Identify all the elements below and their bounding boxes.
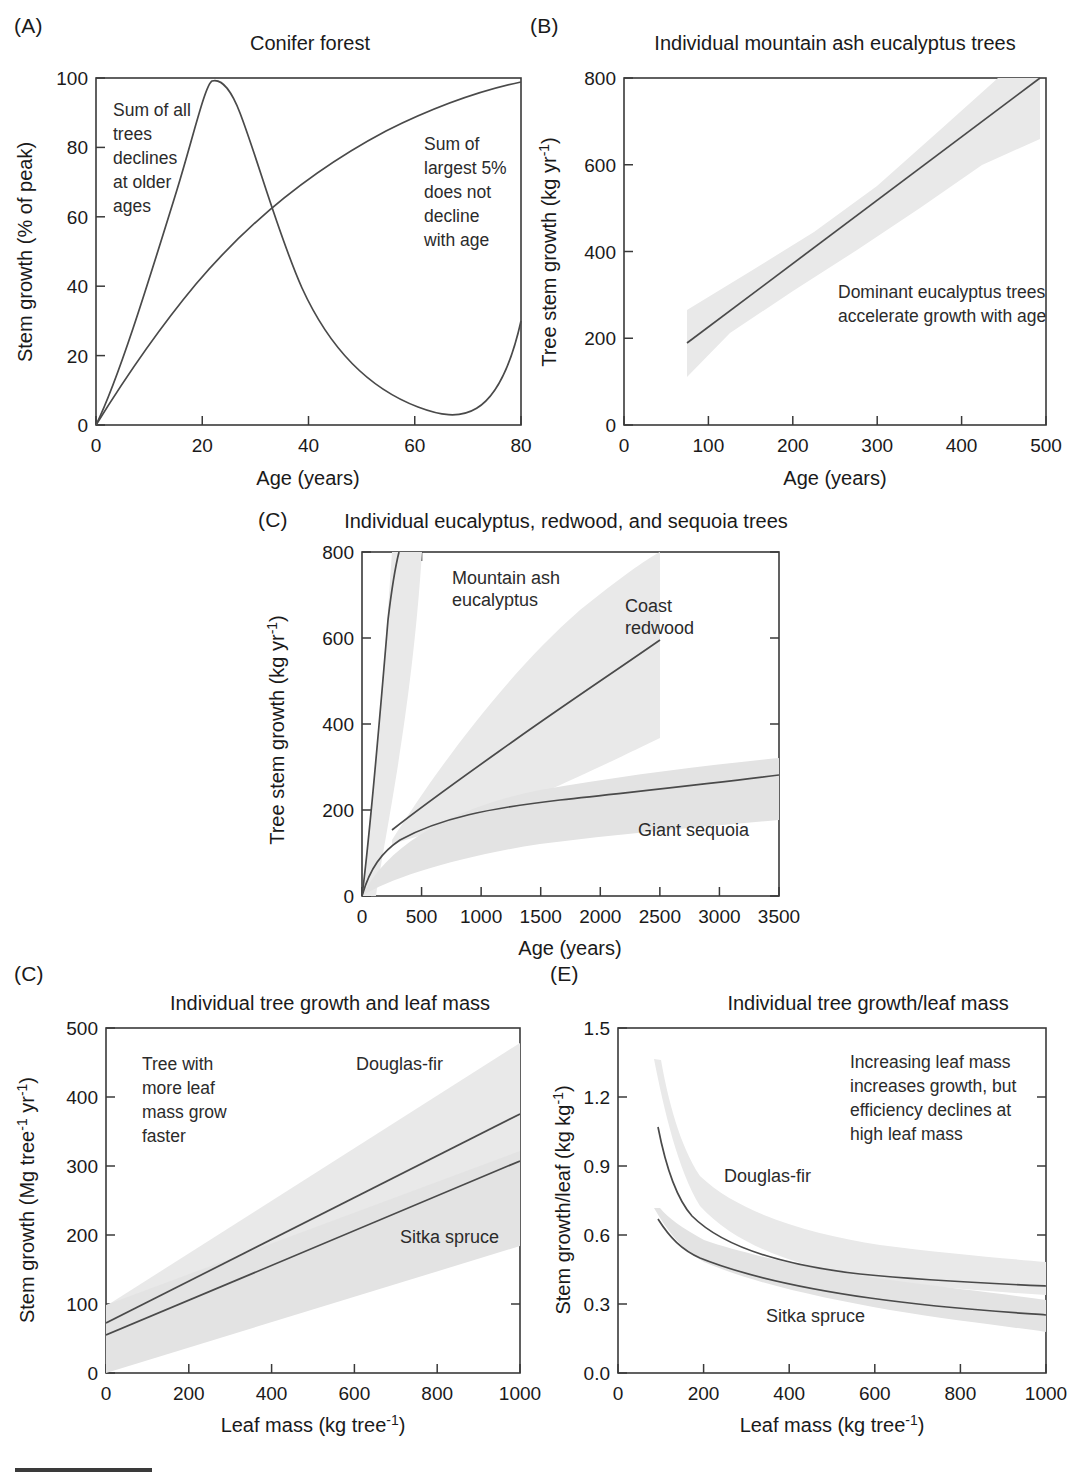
svg-text:with age: with age (423, 230, 489, 250)
panel-e-ylabel: Stem growth/leaf (kg kg-1) (550, 1085, 574, 1314)
panel-d-xtick-600: 600 (339, 1383, 371, 1404)
panel-d-label: (C) (14, 962, 44, 986)
panel-b-title: Individual mountain ash eucalyptus trees (600, 32, 1070, 55)
panel-b-xtick-200: 200 (777, 435, 809, 456)
panel-d-xticks: 0 200 400 600 800 1000 (101, 1364, 541, 1404)
panel-a-ytick-80: 80 (67, 137, 88, 158)
panel-a-title: Conifer forest (160, 32, 460, 55)
svg-text:accelerate growth with age: accelerate growth with age (838, 306, 1046, 326)
panel-e-yticks: 0.0 0.3 0.6 0.9 1.2 1.5 (584, 1018, 1046, 1384)
panel-c-xtick-3000: 3000 (698, 906, 740, 927)
panel-e-ytick-00: 0.0 (584, 1363, 610, 1384)
panel-e-xtick-800: 800 (945, 1383, 977, 1404)
panel-a-curve-all-trees-2 (96, 81, 521, 425)
panel-c-xtick-1000: 1000 (460, 906, 502, 927)
panel-c-ytick-800: 800 (322, 542, 354, 563)
panel-b-mean-line (687, 78, 1040, 343)
svg-text:eucalyptus: eucalyptus (452, 590, 538, 610)
panel-e-ytick-09: 0.9 (584, 1156, 610, 1177)
panel-b: (B) Individual mountain ash eucalyptus t… (520, 0, 1079, 500)
svg-text:Dominant eucalyptus trees: Dominant eucalyptus trees (838, 282, 1045, 302)
panel-b-xtick-300: 300 (861, 435, 893, 456)
panel-d-ytick-0: 0 (87, 1363, 98, 1384)
panel-d-xtick-400: 400 (256, 1383, 288, 1404)
svg-text:increases growth, but: increases growth, but (850, 1076, 1016, 1096)
panel-e-xticks: 0 200 400 600 800 1000 (613, 1364, 1067, 1404)
panel-e-xtick-200: 200 (688, 1383, 720, 1404)
panel-b-confidence-band (687, 78, 1040, 377)
panel-d-series-label-douglas-fir: Douglas-fir (356, 1054, 443, 1074)
panel-c-ytick-0: 0 (343, 886, 354, 907)
panel-b-xlabel: Age (years) (783, 467, 886, 489)
panel-c-xtick-2500: 2500 (639, 906, 681, 927)
panel-b-ytick-800: 800 (584, 68, 616, 89)
svg-text:high leaf mass: high leaf mass (850, 1124, 963, 1144)
panel-d-plot: Stem growth (Mg tree-1 yr-1) 0 100 200 3… (0, 950, 540, 1430)
panel-e-ytick-06: 0.6 (584, 1225, 610, 1246)
svg-text:Sum of all: Sum of all (113, 100, 191, 120)
svg-text:mass grow: mass grow (142, 1102, 227, 1122)
svg-text:ages: ages (113, 196, 151, 216)
panel-d-ytick-500: 500 (66, 1018, 98, 1039)
svg-text:Mountain ash: Mountain ash (452, 568, 560, 588)
panel-c-xtick-0: 0 (357, 906, 368, 927)
svg-text:does not: does not (424, 182, 491, 202)
panel-c-xtick-500: 500 (406, 906, 438, 927)
panel-b-xtick-100: 100 (693, 435, 725, 456)
panel-b-yticks: 0 200 400 600 800 (584, 68, 633, 436)
panel-a-plot: Stem growth (% of peak) 0 20 40 60 80 10… (0, 0, 530, 500)
panel-a-ylabel: Stem growth (% of peak) (14, 142, 36, 362)
panel-a-ytick-20: 20 (67, 346, 88, 367)
panel-c-ylabel: Tree stem growth (kg yr-1) (264, 615, 288, 845)
panel-c-series-label-sequoia: Giant sequoia (638, 820, 750, 840)
panel-e-ytick-15: 1.5 (584, 1018, 610, 1039)
panel-d-ytick-100: 100 (66, 1294, 98, 1315)
svg-text:decline: decline (424, 206, 479, 226)
panel-e-plot: Stem growth/leaf (kg kg-1) 0.0 0.3 0.6 0… (540, 950, 1079, 1430)
panel-e-title: Individual tree growth/leaf mass (688, 992, 1048, 1015)
panel-d-ytick-200: 200 (66, 1225, 98, 1246)
panel-a-xtick-0: 0 (91, 435, 102, 456)
panel-e: (E) Individual tree growth/leaf mass Ste… (540, 950, 1079, 1430)
panel-a-xtick-20: 20 (192, 435, 213, 456)
panel-e-xlabel: Leaf mass (kg tree-1) (740, 1412, 925, 1436)
panel-b-ytick-0: 0 (605, 415, 616, 436)
panel-d-xtick-200: 200 (173, 1383, 205, 1404)
panel-d-xtick-0: 0 (101, 1383, 112, 1404)
panel-c: (C) Individual eucalyptus, redwood, and … (240, 500, 840, 960)
panel-a-annotation-1: Sum of all trees declines at older ages (113, 100, 191, 216)
panel-b-xtick-500: 500 (1030, 435, 1062, 456)
panel-c-xtick-2000: 2000 (579, 906, 621, 927)
svg-text:more leaf: more leaf (142, 1078, 215, 1098)
panel-c-ytick-200: 200 (322, 800, 354, 821)
svg-text:Increasing leaf mass: Increasing leaf mass (850, 1052, 1011, 1072)
panel-e-ytick-03: 0.3 (584, 1294, 610, 1315)
panel-d-series-label-sitka-spruce: Sitka spruce (400, 1227, 499, 1247)
svg-text:Tree with: Tree with (142, 1054, 213, 1074)
svg-text:redwood: redwood (625, 618, 694, 638)
panel-d: (C) Individual tree growth and leaf mass… (0, 950, 540, 1430)
panel-a-xlabel: Age (years) (256, 467, 359, 489)
svg-text:declines: declines (113, 148, 177, 168)
panel-b-ytick-600: 600 (584, 155, 616, 176)
svg-text:trees: trees (113, 124, 152, 144)
panel-c-ytick-600: 600 (322, 628, 354, 649)
panel-b-xtick-400: 400 (946, 435, 978, 456)
panel-d-ytick-400: 400 (66, 1087, 98, 1108)
panel-d-ylabel: Stem growth (Mg tree-1 yr-1) (14, 1077, 38, 1323)
panel-b-xtick-0: 0 (619, 435, 630, 456)
panel-a-xticks: 0 20 40 60 80 (91, 416, 532, 456)
panel-d-annotation: Tree with more leaf mass grow faster (142, 1054, 227, 1146)
panel-a-yticks: 0 20 40 60 80 100 (56, 68, 105, 436)
panel-b-ytick-400: 400 (584, 242, 616, 263)
svg-text:efficiency declines at: efficiency declines at (850, 1100, 1011, 1120)
panel-c-ytick-400: 400 (322, 714, 354, 735)
panel-a-ytick-40: 40 (67, 276, 88, 297)
footer-rule (15, 1468, 152, 1472)
panel-a-annotation-2: Sum of largest 5% does not decline with … (423, 134, 507, 250)
panel-a: (A) Conifer forest Stem growth (% of pea… (0, 0, 530, 500)
panel-e-annotation: Increasing leaf mass increases growth, b… (850, 1052, 1016, 1144)
panel-e-xtick-1000: 1000 (1025, 1383, 1067, 1404)
panel-c-xtick-1500: 1500 (520, 906, 562, 927)
panel-e-series-label-sitka-spruce: Sitka spruce (766, 1306, 865, 1326)
